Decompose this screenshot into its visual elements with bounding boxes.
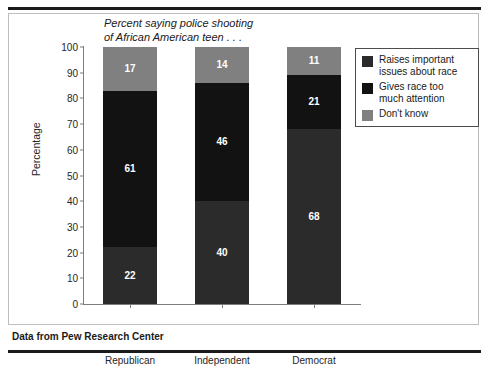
- y-tick-mark: [80, 278, 84, 279]
- plot-area: 0102030405060708090100226117Republican40…: [84, 47, 360, 304]
- bar-segment[interactable]: 61: [103, 91, 157, 248]
- bar-segment[interactable]: 68: [287, 129, 341, 304]
- x-tick-label: Democrat: [292, 355, 335, 366]
- x-tick-label: Republican: [105, 355, 155, 366]
- bar-group[interactable]: 226117: [103, 47, 157, 304]
- bar-group[interactable]: 682111: [287, 47, 341, 304]
- bar-segment[interactable]: 22: [103, 247, 157, 304]
- y-tick-mark: [80, 72, 84, 73]
- bar-segment[interactable]: 40: [195, 201, 249, 304]
- bar-value-label: 17: [124, 64, 135, 74]
- chart-title-line-1: Percent saying police shooting: [104, 16, 354, 30]
- y-axis-label: Percentage: [30, 122, 42, 176]
- bar-value-label: 21: [308, 97, 319, 107]
- bar-value-label: 68: [308, 212, 319, 222]
- top-rule: [8, 7, 481, 10]
- bar-value-label: 40: [216, 248, 227, 258]
- legend-swatch: [362, 83, 373, 94]
- bar-value-label: 61: [124, 164, 135, 174]
- legend-swatch: [362, 110, 373, 121]
- legend-item[interactable]: Don't know: [362, 108, 473, 121]
- y-tick-mark: [80, 226, 84, 227]
- chart-legend: Raises importantissues about raceGives r…: [355, 48, 479, 127]
- bar-value-label: 14: [216, 60, 227, 70]
- bar-segment[interactable]: 21: [287, 75, 341, 129]
- x-tick-mark: [314, 304, 315, 308]
- chart-title-line-2: of African American teen . . .: [104, 30, 354, 44]
- bar-group[interactable]: 404614: [195, 47, 249, 304]
- bottom-rule: [8, 350, 481, 353]
- bar-value-label: 22: [124, 271, 135, 281]
- y-tick-mark: [80, 201, 84, 202]
- y-tick-mark: [80, 252, 84, 253]
- bar-segment[interactable]: 17: [103, 47, 157, 91]
- legend-swatch: [362, 56, 373, 67]
- x-tick-mark: [222, 304, 223, 308]
- y-tick-mark: [80, 124, 84, 125]
- y-tick-mark: [80, 304, 84, 305]
- bar-value-label: 46: [216, 137, 227, 147]
- bar-segment[interactable]: 46: [195, 83, 249, 201]
- bar-value-label: 11: [309, 56, 320, 66]
- bar-segment[interactable]: 14: [195, 47, 249, 83]
- legend-label: Don't know: [379, 108, 428, 120]
- chart-title: Percent saying police shooting of Africa…: [104, 16, 354, 44]
- source-caption: Data from Pew Research Center: [12, 331, 164, 342]
- y-tick-mark: [80, 175, 84, 176]
- legend-label: Raises importantissues about race: [379, 54, 457, 78]
- bar-segment[interactable]: 11: [287, 47, 341, 75]
- y-tick-mark: [80, 98, 84, 99]
- y-tick-mark: [80, 149, 84, 150]
- y-tick-mark: [80, 47, 84, 48]
- x-tick-label: Independent: [194, 355, 250, 366]
- legend-item[interactable]: Raises importantissues about race: [362, 54, 473, 78]
- legend-label: Gives race toomuch attention: [379, 81, 445, 105]
- legend-item[interactable]: Gives race toomuch attention: [362, 81, 473, 105]
- x-tick-mark: [130, 304, 131, 308]
